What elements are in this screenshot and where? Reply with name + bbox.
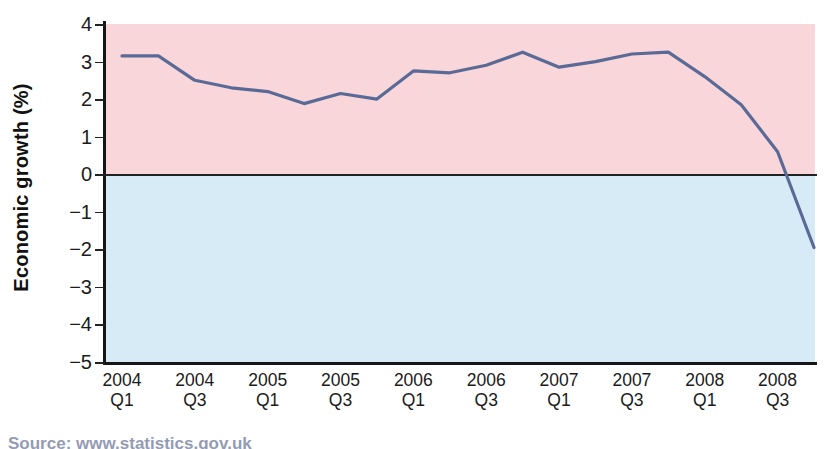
- y-tick-mark: [95, 137, 105, 139]
- x-tick-label: 2008Q1: [665, 370, 745, 410]
- x-tick-quarter: Q1: [373, 390, 453, 410]
- x-tick-year: 2007: [519, 370, 599, 390]
- x-tick-quarter: Q3: [446, 390, 526, 410]
- x-tick-quarter: Q1: [519, 390, 599, 410]
- x-tick-quarter: Q3: [155, 390, 235, 410]
- x-tick-year: 2004: [155, 370, 235, 390]
- x-tick-label: 2007Q3: [592, 370, 672, 410]
- x-tick-label: 2004Q3: [155, 370, 235, 410]
- y-tick-mark: [95, 362, 105, 364]
- x-tick-quarter: Q1: [665, 390, 745, 410]
- x-tick-label: 2008Q3: [738, 370, 818, 410]
- x-tick-quarter: Q3: [301, 390, 381, 410]
- x-tick-year: 2006: [373, 370, 453, 390]
- x-tick-label: 2005Q1: [228, 370, 308, 410]
- x-tick-year: 2005: [301, 370, 381, 390]
- x-tick-label: 2006Q3: [446, 370, 526, 410]
- x-tick-label: 2005Q3: [301, 370, 381, 410]
- x-tick-quarter: Q3: [592, 390, 672, 410]
- source-caption: Source: www.statistics.gov.uk: [8, 434, 508, 449]
- x-tick-quarter: Q1: [228, 390, 308, 410]
- x-tick-year: 2005: [228, 370, 308, 390]
- y-tick-mark: [95, 249, 105, 251]
- y-tick-mark: [95, 24, 105, 26]
- x-tick-year: 2006: [446, 370, 526, 390]
- x-tick-year: 2008: [665, 370, 745, 390]
- x-tick-label: 2004Q1: [82, 370, 162, 410]
- y-tick-mark: [95, 287, 105, 289]
- x-tick-quarter: Q1: [82, 390, 162, 410]
- x-tick-label: 2006Q1: [373, 370, 453, 410]
- y-tick-mark: [95, 62, 105, 64]
- y-tick-mark: [95, 212, 105, 214]
- y-tick-mark: [95, 324, 105, 326]
- y-tick-mark: [95, 99, 105, 101]
- economic-growth-line: [122, 52, 814, 247]
- x-tick-year: 2007: [592, 370, 672, 390]
- y-tick-mark: [95, 174, 105, 176]
- x-axis-tick-labels: 2004Q12004Q32005Q12005Q32006Q12006Q32007…: [0, 370, 836, 422]
- x-tick-year: 2004: [82, 370, 162, 390]
- x-tick-quarter: Q3: [738, 390, 818, 410]
- x-tick-label: 2007Q1: [519, 370, 599, 410]
- economic-growth-line-chart: Economic growth (%) 43210−1−2−3−4−5 2004…: [0, 0, 836, 449]
- x-tick-year: 2008: [738, 370, 818, 390]
